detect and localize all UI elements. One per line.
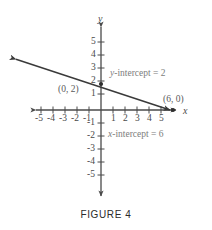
x-intercept-point: [171, 108, 175, 112]
point-label-x-intercept: (6, 0): [163, 95, 184, 105]
annotation-y-intercept: y-intercept = 2: [110, 69, 165, 79]
y-tick-label-neg1: -1: [87, 118, 95, 128]
annotation-x-intercept: x-intercept = 6: [108, 130, 163, 140]
x-tick-label-pos2: 2: [123, 114, 128, 124]
y-tick-label-pos4: 4: [91, 50, 96, 60]
annotation-y-intercept-text: -intercept = 2: [114, 68, 165, 78]
coordinate-plane-graphic: [0, 0, 212, 212]
x-tick-label-neg2: -2: [71, 114, 79, 124]
figure-container: -5 -4 -3 -2 -1 1 2 3 4 5 5 4 3 2 1 -1 -2…: [0, 0, 212, 230]
x-tick-label-pos5: 5: [159, 114, 164, 124]
y-tick-label-pos3: 3: [91, 63, 96, 73]
y-tick-label-pos5: 5: [91, 37, 96, 47]
y-intercept-point: [99, 82, 103, 86]
y-tick-label-pos1: 1: [91, 89, 96, 99]
x-tick-label-neg3: -3: [59, 114, 67, 124]
y-tick-label-neg2: -2: [87, 131, 95, 141]
y-tick-label-neg5: -5: [87, 170, 95, 180]
y-axis-name: y: [98, 14, 102, 24]
x-axis-name: x: [183, 106, 187, 116]
figure-caption: FIGURE 4: [0, 209, 212, 220]
x-tick-label-pos4: 4: [147, 114, 152, 124]
y-tick-label-neg4: -4: [87, 157, 95, 167]
y-tick-label-neg3: -3: [87, 144, 95, 154]
x-tick-label-neg5: -5: [35, 114, 43, 124]
x-tick-label-pos3: 3: [135, 114, 140, 124]
point-label-y-intercept: (0, 2): [58, 85, 79, 95]
x-tick-label-pos1: 1: [111, 114, 116, 124]
annotation-x-intercept-text: -intercept = 6: [112, 129, 163, 139]
y-tick-label-pos2: 2: [91, 76, 96, 86]
x-tick-label-neg4: -4: [47, 114, 55, 124]
